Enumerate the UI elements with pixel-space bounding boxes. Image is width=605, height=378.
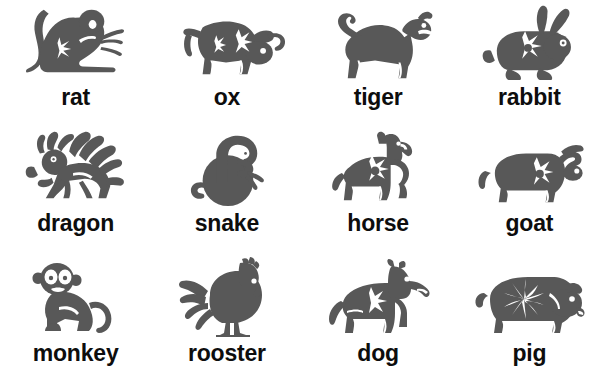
zodiac-cell-horse[interactable]: horse: [303, 126, 454, 252]
pig-silhouette-icon: [466, 256, 592, 340]
zodiac-label-tiger: tiger: [354, 86, 403, 109]
zodiac-label-ox: ox: [214, 86, 240, 109]
dog-silhouette-icon: [315, 256, 441, 340]
zodiac-cell-snake[interactable]: snake: [151, 126, 302, 252]
zodiac-label-snake: snake: [195, 212, 259, 235]
zodiac-label-dragon: dragon: [37, 212, 114, 235]
zodiac-cell-dragon[interactable]: dragon: [0, 126, 151, 252]
zodiac-cell-monkey[interactable]: monkey: [0, 252, 151, 378]
zodiac-cell-rooster[interactable]: rooster: [151, 252, 302, 378]
zodiac-label-rabbit: rabbit: [498, 86, 561, 109]
zodiac-label-dog: dog: [357, 342, 399, 365]
zodiac-cell-tiger[interactable]: tiger: [303, 0, 454, 126]
zodiac-label-pig: pig: [512, 342, 546, 365]
zodiac-label-rooster: rooster: [188, 342, 266, 365]
zodiac-label-goat: goat: [506, 212, 554, 235]
zodiac-cell-goat[interactable]: goat: [454, 126, 605, 252]
dragon-silhouette-icon: [13, 130, 139, 210]
goat-silhouette-icon: [466, 130, 592, 210]
zodiac-cell-ox[interactable]: ox: [151, 0, 302, 126]
tiger-silhouette-icon: [315, 4, 441, 84]
rabbit-silhouette-icon: [466, 4, 592, 84]
zodiac-label-horse: horse: [347, 212, 409, 235]
snake-silhouette-icon: [164, 130, 290, 210]
monkey-silhouette-icon: [13, 256, 139, 340]
zodiac-cell-rabbit[interactable]: rabbit: [454, 0, 605, 126]
horse-silhouette-icon: [315, 130, 441, 210]
zodiac-cell-rat[interactable]: rat: [0, 0, 151, 126]
zodiac-grid: rat ox: [0, 0, 605, 378]
zodiac-cell-dog[interactable]: dog: [303, 252, 454, 378]
zodiac-label-monkey: monkey: [33, 342, 119, 365]
rat-silhouette-icon: [13, 4, 139, 84]
rooster-silhouette-icon: [164, 256, 290, 340]
zodiac-label-rat: rat: [61, 86, 90, 109]
ox-silhouette-icon: [164, 4, 290, 84]
zodiac-cell-pig[interactable]: pig: [454, 252, 605, 378]
